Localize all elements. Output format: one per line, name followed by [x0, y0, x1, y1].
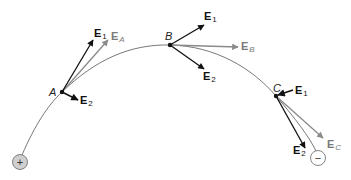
- point-a-dot: [60, 90, 64, 94]
- point-c-label: C: [273, 82, 281, 94]
- vector-b-e1: [170, 25, 204, 45]
- vector-a-enet: [62, 40, 108, 92]
- point-b-label: B: [165, 30, 172, 42]
- point-b-dot: [168, 43, 172, 47]
- vector-a-e1: [62, 40, 93, 92]
- vector-a-e2: [62, 92, 78, 100]
- positive-charge: +: [13, 155, 28, 170]
- label-b-enet: EB: [241, 40, 255, 54]
- label-c-e1: E1: [295, 84, 308, 98]
- point-c-dot: [274, 94, 278, 98]
- label-b-e1: E1: [204, 10, 217, 24]
- vector-c-enet: [276, 96, 323, 138]
- label-a-e1: E1: [94, 27, 107, 41]
- point-a-label: A: [48, 86, 56, 98]
- negative-charge: −: [311, 151, 326, 166]
- label-b-e2: E2: [203, 70, 216, 84]
- label-a-e2: E2: [80, 94, 93, 108]
- field-line: [22, 45, 316, 155]
- dipole-field-diagram: + − A B C E1 EA E2 E1 EB E2 E1 E2 EC: [0, 0, 351, 180]
- point-b-vectors: [168, 25, 238, 69]
- negative-charge-symbol: −: [315, 152, 321, 164]
- vector-b-enet: [170, 45, 238, 47]
- point-c-vectors: [274, 90, 323, 148]
- vector-c-e2: [276, 96, 305, 148]
- label-c-enet: EC: [327, 138, 341, 152]
- label-a-enet: EA: [111, 30, 125, 44]
- point-a-vectors: [60, 40, 108, 100]
- positive-charge-symbol: +: [17, 156, 23, 168]
